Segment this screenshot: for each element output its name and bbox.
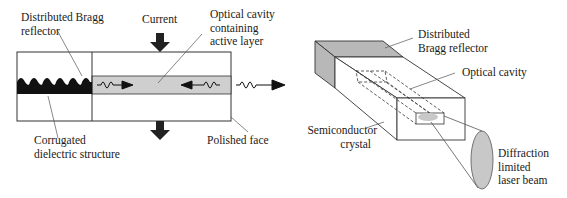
label-line: Corrugated bbox=[34, 134, 120, 148]
label-line: active layer bbox=[210, 35, 275, 49]
label-laser-beam: Diffraction limited laser beam bbox=[498, 147, 549, 188]
label-line: laser beam bbox=[498, 174, 549, 188]
current-arrow-in-icon bbox=[150, 33, 170, 52]
label-line: Semiconductor bbox=[291, 124, 377, 138]
current-arrow-out-icon bbox=[150, 121, 170, 140]
label-line: Distributed Bragg bbox=[21, 11, 104, 25]
label-dbr-left: Distributed Bragg reflector bbox=[21, 11, 104, 38]
label-line: Bragg reflector bbox=[418, 42, 488, 56]
label-dbr-right: Distributed Bragg reflector bbox=[418, 28, 488, 55]
label-semiconductor-crystal: Semiconductor crystal bbox=[291, 124, 377, 151]
label-optical-cavity-active: Optical cavity containing active layer bbox=[210, 8, 275, 49]
label-line: Optical cavity bbox=[210, 8, 275, 22]
label-line: reflector bbox=[21, 25, 104, 39]
dbr-laser-3d-view bbox=[315, 38, 493, 189]
label-line: dielectric structure bbox=[34, 148, 120, 162]
label-line: limited bbox=[498, 161, 549, 175]
label-line: Diffraction bbox=[498, 147, 549, 161]
label-line: containing bbox=[210, 22, 275, 36]
label-optical-cavity: Optical cavity bbox=[462, 66, 527, 80]
label-line: Distributed bbox=[418, 28, 488, 42]
label-polished-face: Polished face bbox=[207, 134, 269, 148]
output-wave-arrow-icon bbox=[236, 80, 285, 90]
label-line: crystal bbox=[291, 138, 377, 152]
laser-beam-spot bbox=[471, 131, 493, 189]
label-corrugated: Corrugated dielectric structure bbox=[34, 134, 120, 161]
label-current: Current bbox=[142, 13, 177, 27]
